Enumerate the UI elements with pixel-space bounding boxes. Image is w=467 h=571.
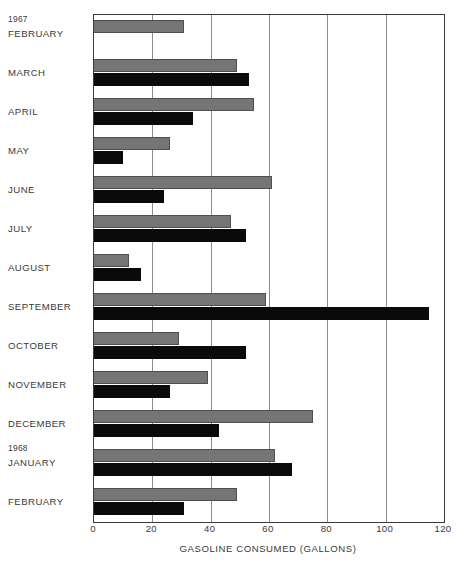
category-label-1: MARCH: [8, 67, 45, 78]
x-tick-label-20: 20: [146, 523, 157, 534]
x-tick-label-60: 60: [262, 523, 273, 534]
plot-area: [93, 14, 445, 523]
bar-gray-5: [94, 215, 231, 228]
bar-black-6: [94, 268, 141, 281]
bar-gray-7: [94, 293, 266, 306]
gasoline-consumed-bar-chart: FEBRUARYMARCHAPRILMAYJUNEJULYAUGUSTSEPTE…: [0, 0, 467, 571]
bar-black-11: [94, 463, 292, 476]
bar-gray-9: [94, 371, 208, 384]
category-label-7: SEPTEMBER: [8, 301, 71, 312]
bar-black-12: [94, 502, 184, 515]
category-label-12: FEBRUARY: [8, 496, 64, 507]
category-label-0: FEBRUARY: [8, 28, 64, 39]
category-label-4: JUNE: [8, 184, 35, 195]
gridline-40: [211, 15, 212, 522]
bar-gray-0: [94, 20, 184, 33]
bar-black-8: [94, 346, 246, 359]
category-label-8: OCTOBER: [8, 340, 58, 351]
bar-black-9: [94, 385, 170, 398]
bar-black-10: [94, 424, 219, 437]
x-tick-label-40: 40: [204, 523, 215, 534]
bar-gray-11: [94, 449, 275, 462]
x-axis-tick-labels: 020406080100120: [93, 523, 443, 539]
bar-gray-12: [94, 488, 237, 501]
bar-gray-1: [94, 59, 237, 72]
bar-black-1: [94, 73, 249, 86]
x-tick-label-0: 0: [90, 523, 96, 534]
year-label-1968: 1968: [8, 443, 28, 453]
bar-gray-4: [94, 176, 272, 189]
x-tick-label-100: 100: [376, 523, 393, 534]
bar-gray-10: [94, 410, 313, 423]
bar-gray-8: [94, 332, 179, 345]
bar-gray-6: [94, 254, 129, 267]
category-label-5: JULY: [8, 223, 33, 234]
category-label-2: APRIL: [8, 106, 38, 117]
category-label-11: JANUARY: [8, 457, 56, 468]
gridline-80: [327, 15, 328, 522]
x-axis-title: GASOLINE CONSUMED (GALLONS): [93, 543, 443, 554]
category-label-6: AUGUST: [8, 262, 51, 273]
x-tick-label-120: 120: [435, 523, 452, 534]
category-label-10: DECEMBER: [8, 418, 66, 429]
gridline-60: [269, 15, 270, 522]
year-label-1967: 1967: [8, 14, 28, 24]
bar-black-7: [94, 307, 429, 320]
gridline-20: [152, 15, 153, 522]
category-label-column: FEBRUARYMARCHAPRILMAYJUNEJULYAUGUSTSEPTE…: [0, 0, 92, 571]
x-tick-label-80: 80: [321, 523, 332, 534]
bar-black-2: [94, 112, 193, 125]
category-label-3: MAY: [8, 145, 29, 156]
bar-gray-2: [94, 98, 254, 111]
category-label-9: NOVEMBER: [8, 379, 67, 390]
bar-black-4: [94, 190, 164, 203]
bar-black-5: [94, 229, 246, 242]
gridline-100: [386, 15, 387, 522]
bar-gray-3: [94, 137, 170, 150]
bar-black-3: [94, 151, 123, 164]
